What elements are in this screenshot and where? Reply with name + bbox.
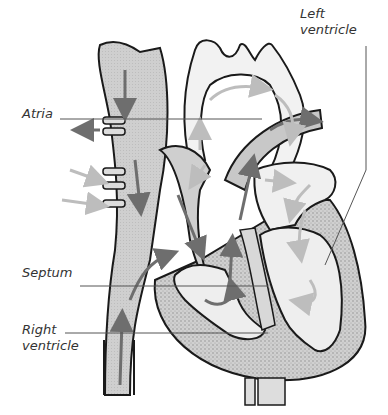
label-left-ventricle: Left ventricle [300, 6, 357, 38]
label-atria: Atria [22, 106, 53, 122]
label-septum: Septum [22, 265, 73, 281]
inferior-vessel-stubs [245, 378, 285, 405]
vena-cava [99, 42, 168, 395]
label-right-ventricle: Right ventricle [22, 322, 79, 354]
